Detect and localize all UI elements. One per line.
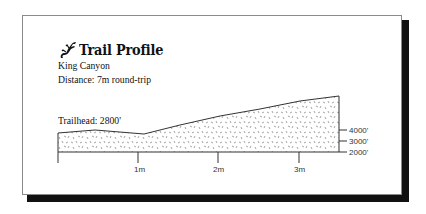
x-tick-label: 3m [294, 165, 305, 174]
x-tick-label: 1m [134, 165, 145, 174]
y-tick-label: 2000' [349, 148, 369, 157]
elevation-chart: 1m 2m 3m 4000' 3000' 2000' [0, 0, 426, 214]
x-tick-label: 2m [213, 165, 224, 174]
y-tick-label: 3000' [349, 137, 369, 146]
y-tick-label: 4000' [349, 126, 369, 135]
elevation-area [58, 96, 339, 152]
